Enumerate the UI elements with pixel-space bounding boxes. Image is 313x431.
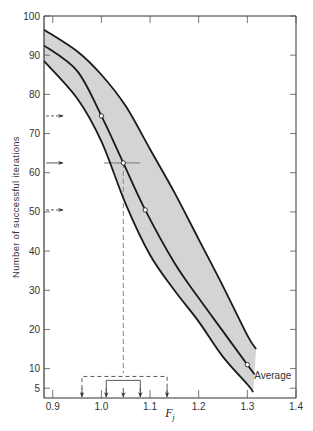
data-point <box>143 208 147 212</box>
y-tick-label: 50 <box>29 206 41 217</box>
chart: 51020304050607080901000.91.01.11.21.31.4… <box>0 0 313 431</box>
average-annotation: Average <box>254 370 292 381</box>
y-tick-label: 40 <box>29 246 41 257</box>
y-tick-label: 10 <box>29 363 41 374</box>
x-tick-label: 1.2 <box>192 401 206 412</box>
y-axis-title: Number of successful iterations <box>10 136 21 278</box>
data-point <box>245 362 249 366</box>
y-tick-label: 5 <box>34 383 40 394</box>
confidence-band-layer <box>44 30 256 392</box>
confidence-band <box>44 30 256 392</box>
y-tick-label: 70 <box>29 128 41 139</box>
y-tick-label: 80 <box>29 89 41 100</box>
data-point <box>121 161 125 165</box>
x-tick-label: 0.9 <box>46 401 60 412</box>
y-tick-label: 100 <box>23 11 40 22</box>
x-tick-label: 1.4 <box>289 401 303 412</box>
y-tick-label: 20 <box>29 324 41 335</box>
x-axis-title: Fj <box>164 406 175 422</box>
annotations: Average <box>254 370 292 381</box>
data-point <box>99 114 103 118</box>
y-tick-label: 90 <box>29 50 41 61</box>
x-tick-label: 1.1 <box>143 401 157 412</box>
x-tick-label: 1.0 <box>94 401 108 412</box>
x-axis-title-subscript: j <box>172 413 176 422</box>
x-tick-label: 1.3 <box>240 401 254 412</box>
y-tick-label: 60 <box>29 167 41 178</box>
y-tick-label: 30 <box>29 285 41 296</box>
dashed-bracket <box>82 376 167 396</box>
